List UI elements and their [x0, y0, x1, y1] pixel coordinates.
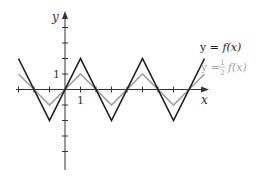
x-axis-label: x	[201, 93, 208, 107]
legend-prefix: y =	[200, 61, 220, 74]
legend-func: f(x)	[227, 61, 247, 74]
x-tick-label-1: 1	[77, 94, 84, 107]
legend-entry-half-f: y = 1 2 f(x)	[200, 58, 247, 77]
graph: y x 1 1 y = f(x) y = 1 2 f(x)	[0, 0, 259, 182]
fraction-denominator: 2	[220, 68, 225, 77]
y-axis-label: y	[51, 10, 59, 24]
y-tick-label-1: 1	[53, 68, 60, 81]
y-axis-arrow-icon	[62, 11, 68, 19]
legend-entry-f: y = f(x)	[199, 41, 241, 54]
legend: y = f(x) y = 1 2 f(x)	[199, 41, 247, 77]
fraction-numerator: 1	[220, 58, 225, 67]
x-axis-arrow-icon	[201, 87, 209, 93]
axes	[16, 11, 209, 170]
